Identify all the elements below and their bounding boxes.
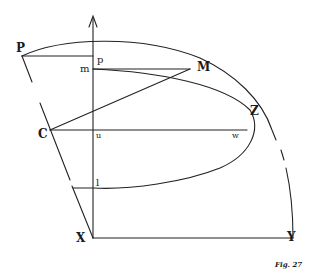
label-C: C xyxy=(38,128,48,140)
label-M: M xyxy=(197,61,210,73)
left-line-mid xyxy=(40,103,70,180)
figure-caption: Fig. 27 xyxy=(275,261,302,268)
label-l: l xyxy=(96,178,99,188)
line-CM xyxy=(50,69,190,130)
outer-arc-dash xyxy=(281,150,284,160)
label-Y: Y xyxy=(287,231,296,243)
label-w: w xyxy=(232,132,239,140)
inner-curve xyxy=(73,69,255,188)
label-X: X xyxy=(76,232,85,244)
label-P: P xyxy=(16,42,25,54)
label-m: m xyxy=(80,64,89,74)
left-line-top xyxy=(22,56,32,82)
label-p: p xyxy=(97,55,103,65)
label-Z: Z xyxy=(250,105,259,117)
label-u: u xyxy=(96,132,101,140)
outer-arc-lower xyxy=(286,168,293,238)
